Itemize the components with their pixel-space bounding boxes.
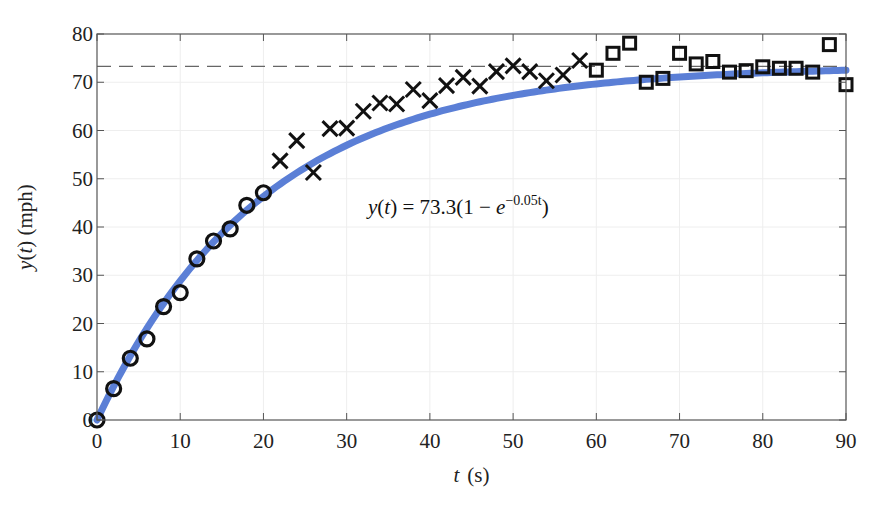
cross-marker xyxy=(439,78,454,93)
x-tick-label: 30 xyxy=(336,429,357,453)
x-axis-title: t(s) xyxy=(453,463,489,487)
x-tick-label: 60 xyxy=(586,429,607,453)
x-tick-labels: 0102030405060708090 xyxy=(92,429,857,453)
y-tick-label: 80 xyxy=(72,22,93,46)
cross-marker xyxy=(572,53,587,68)
equation-lhs: y(t) = 73.3(1 − xyxy=(366,195,496,219)
y-tick-label: 10 xyxy=(72,360,93,384)
chart: 0102030405060708090 01020304050607080 y(… xyxy=(0,0,876,514)
x-tick-label: 90 xyxy=(836,429,857,453)
cross-marker xyxy=(389,96,404,111)
grid-lines xyxy=(97,34,846,420)
equation-exponent: −0.05t xyxy=(505,193,541,208)
x-tick-label: 80 xyxy=(752,429,773,453)
square-marker xyxy=(823,39,835,51)
x-tick-label: 70 xyxy=(669,429,690,453)
square-marker xyxy=(690,58,702,70)
x-axis-unit: (s) xyxy=(467,463,489,487)
y-tick-labels: 01020304050607080 xyxy=(72,22,93,432)
data-markers xyxy=(90,37,852,427)
y-axis-title: y(t) (mph) xyxy=(13,184,37,272)
y-tick-label: 50 xyxy=(72,167,93,191)
cross-marker xyxy=(306,165,321,180)
y-tick-label: 40 xyxy=(72,215,93,239)
cross-marker xyxy=(472,79,487,94)
y-tick-label: 60 xyxy=(72,119,93,143)
fit-equation-annotation: y(t) = 73.3(1 − e−0.05t) xyxy=(366,193,549,219)
equation-base: e xyxy=(496,195,505,219)
x-tick-label: 50 xyxy=(503,429,524,453)
cross-marker xyxy=(356,104,371,119)
cross-marker xyxy=(289,133,304,148)
square-marker xyxy=(607,47,619,59)
y-tick-label: 20 xyxy=(72,312,93,336)
cross-marker xyxy=(556,68,571,83)
cross-marker xyxy=(539,73,554,88)
square-marker xyxy=(707,56,719,68)
x-axis-variable: t xyxy=(453,463,460,487)
cross-marker xyxy=(522,64,537,79)
x-tick-label: 20 xyxy=(253,429,274,453)
x-tick-label: 10 xyxy=(170,429,191,453)
cross-marker xyxy=(273,153,288,168)
cross-marker xyxy=(406,82,421,97)
y-tick-label: 30 xyxy=(72,263,93,287)
square-marker xyxy=(624,37,636,49)
cross-marker xyxy=(323,121,338,136)
y-tick-label: 0 xyxy=(83,408,94,432)
x-tick-label: 40 xyxy=(419,429,440,453)
cross-marker xyxy=(372,95,387,110)
y-tick-label: 70 xyxy=(72,70,93,94)
x-tick-label: 0 xyxy=(92,429,103,453)
equation-rhs: ) xyxy=(542,195,549,219)
